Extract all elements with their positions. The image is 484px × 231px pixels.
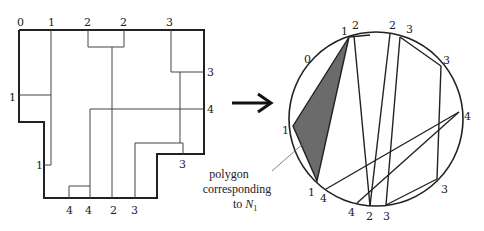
circle-label-2a: 2: [352, 19, 359, 32]
annotation-sub: 1: [253, 204, 257, 213]
annotation-leader-line: [272, 142, 305, 171]
circle-label-2b: 2: [389, 19, 396, 32]
label-top-1: 1: [48, 16, 55, 29]
label-left-1a: 1: [9, 91, 16, 104]
annotation-text: polygon corresponding to N1: [203, 167, 272, 213]
circle-label-1-left: 1: [282, 124, 289, 137]
annotation-line-3: to N1: [233, 197, 257, 213]
label-left-1b: 1: [36, 159, 43, 172]
circle-label-0: 0: [304, 53, 311, 66]
rectilinear-polygon: [19, 30, 204, 198]
circle-label-4a: 4: [348, 206, 355, 219]
label-right-4: 4: [207, 103, 214, 116]
diagram-canvas: 0 1 2 2 3 3 4 1 1 3 4 4 2 3 0 1 2: [0, 0, 484, 231]
label-bottom-2: 2: [110, 204, 117, 217]
label-step-3: 3: [179, 158, 186, 171]
annotation-prefix: to: [233, 197, 245, 211]
label-bottom-4b: 4: [85, 204, 92, 217]
label-top-0: 0: [17, 16, 24, 29]
circle-diagram: [289, 32, 463, 206]
right-arrow-icon: [232, 94, 271, 112]
annotation-line-2: corresponding: [203, 182, 272, 196]
circle-label-2c: 2: [366, 210, 373, 223]
shaded-polygon-n1: [293, 37, 349, 181]
circle-label-3b: 3: [443, 54, 450, 67]
circle-label-3c: 3: [441, 183, 448, 196]
label-bottom-4a: 4: [66, 204, 73, 217]
circle-label-4b: 4: [320, 192, 327, 205]
label-top-2b: 2: [120, 16, 127, 29]
annotation-line-1: polygon: [209, 167, 248, 181]
circle-label-3d: 3: [383, 210, 390, 223]
label-bottom-3: 3: [131, 204, 138, 217]
label-top-3: 3: [166, 16, 173, 29]
circle-label-3a: 3: [406, 23, 413, 36]
label-top-2a: 2: [84, 16, 91, 29]
circle-label-1-top: 1: [341, 25, 348, 38]
label-right-3: 3: [207, 66, 214, 79]
circle-label-4-right: 4: [464, 110, 471, 123]
circle-label-1-bottom: 1: [308, 186, 315, 199]
